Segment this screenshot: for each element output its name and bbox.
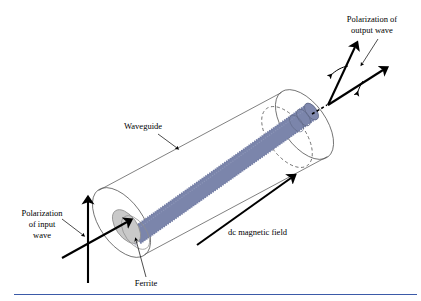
- rotation-arc-lower: [357, 81, 363, 94]
- faraday-rotation-diagram: dc magnetic field Waveguide Ferrite Pola…: [0, 0, 421, 301]
- diagram-canvas: dc magnetic field Waveguide Ferrite Pola…: [0, 0, 421, 301]
- output-polarization-leader-line: [362, 39, 378, 64]
- waveguide-leader-line: [158, 134, 177, 148]
- input-propagation-arrow: [62, 222, 127, 258]
- output-polarization-label-line1: Polarization of: [347, 14, 397, 24]
- input-polarization-label-line2: of input: [29, 219, 56, 229]
- input-polarization-label-group: Polarization of input wave: [21, 208, 83, 240]
- ferrite-leader-line: [136, 240, 146, 277]
- input-polarization-leader-line: [62, 219, 83, 235]
- output-polarization-label-line2: output wave: [351, 25, 393, 35]
- output-wave-arrows: [312, 47, 383, 114]
- input-polarization-label-line3: wave: [33, 230, 51, 240]
- input-polarization-label-line1: Polarization: [21, 208, 63, 218]
- waveguide-label-group: Waveguide: [124, 121, 177, 148]
- waveguide-label: Waveguide: [124, 121, 162, 131]
- dc-magnetic-field-label: dc magnetic field: [228, 227, 288, 237]
- ferrite-label: Ferrite: [135, 278, 158, 288]
- output-polarization-label-group: Polarization of output wave: [347, 14, 397, 64]
- ferrite-label-group: Ferrite: [135, 240, 158, 288]
- waveguide-top-edge: [99, 93, 282, 191]
